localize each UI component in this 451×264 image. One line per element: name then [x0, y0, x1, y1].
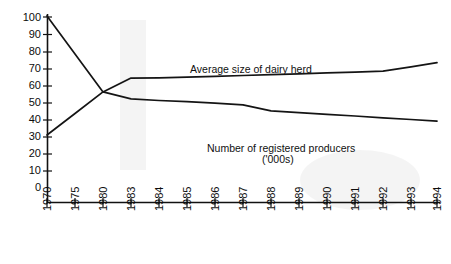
y-tick-label: 40 [29, 113, 41, 125]
y-tick-label: 20 [29, 147, 41, 159]
y-tick-label: 80 [29, 45, 41, 57]
y-tick-label: 70 [29, 62, 41, 74]
x-tick-label: 1975 [69, 187, 81, 211]
y-tick-label: 60 [29, 79, 41, 91]
x-tick-label: 1980 [97, 187, 109, 211]
x-tick-label: 1983 [125, 187, 137, 211]
x-tick-label: 1991 [349, 187, 361, 211]
x-axis-tick-labels: 1970 1975 1980 1983 1984 1985 1986 1987 … [41, 187, 443, 211]
y-tick-label: 10 [29, 164, 41, 176]
line-chart: 100 90 80 70 60 50 40 30 20 10 0 [0, 0, 451, 264]
x-tick-label: 1984 [153, 187, 165, 211]
y-axis-tick-labels: 100 90 80 70 60 50 40 30 20 10 0 [23, 11, 41, 193]
x-tick-label: 1970 [41, 187, 53, 211]
x-tick-label: 1989 [293, 187, 305, 211]
x-tick-label: 1994 [431, 187, 443, 211]
x-tick-label: 1993 [405, 187, 417, 211]
y-tick-label: 90 [29, 28, 41, 40]
x-tick-label: 1990 [321, 187, 333, 211]
series-annotation-producers-units: ('000s) [262, 153, 294, 165]
y-tick-label: 100 [23, 11, 41, 23]
chart-plot-area: 100 90 80 70 60 50 40 30 20 10 0 [0, 0, 451, 264]
x-tick-label: 1987 [237, 187, 249, 211]
x-tick-label: 1985 [181, 187, 193, 211]
x-tick-label: 1988 [265, 187, 277, 211]
y-tick-label: 50 [29, 96, 41, 108]
series-annotation-herd: Average size of dairy herd [190, 63, 312, 75]
y-tick-label: 30 [29, 130, 41, 142]
x-tick-label: 1986 [209, 187, 221, 211]
x-tick-label: 1992 [377, 187, 389, 211]
